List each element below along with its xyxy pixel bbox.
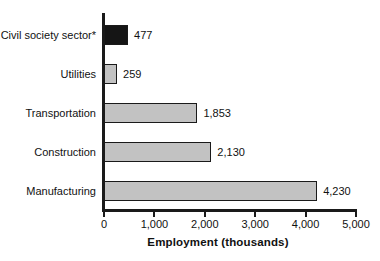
bar-value-label: 4,230 xyxy=(323,180,351,202)
bar xyxy=(104,25,128,45)
bar-value-label: 477 xyxy=(134,24,152,46)
category-label: Civil society sector* xyxy=(0,24,96,46)
x-axis-tick xyxy=(103,212,105,217)
bar-row: Transportation1,853 xyxy=(0,102,380,124)
bar xyxy=(104,64,117,84)
x-axis-tick xyxy=(153,212,155,217)
bar-value-label: 2,130 xyxy=(217,141,245,163)
x-axis-tick xyxy=(204,212,206,217)
y-axis-line xyxy=(102,13,105,211)
bar-value-label: 1,853 xyxy=(203,102,231,124)
category-label: Manufacturing xyxy=(0,180,96,202)
x-axis-tick-label: 5,000 xyxy=(331,218,380,231)
bar xyxy=(104,181,317,201)
x-axis-tick-label: 1,000 xyxy=(129,218,179,231)
category-label: Transportation xyxy=(0,102,96,124)
category-label: Construction xyxy=(0,141,96,163)
bar-chart: Civil society sector*477Utilities259Tran… xyxy=(0,0,380,261)
x-axis-tick-label: 4,000 xyxy=(281,218,331,231)
x-axis-tick xyxy=(355,212,357,217)
category-label: Utilities xyxy=(0,63,96,85)
x-axis-tick xyxy=(254,212,256,217)
bar-row: Utilities259 xyxy=(0,63,380,85)
bar-value-label: 259 xyxy=(123,63,141,85)
x-axis-tick-label: 2,000 xyxy=(180,218,230,231)
x-axis-tick-label: 3,000 xyxy=(230,218,280,231)
bar xyxy=(104,142,211,162)
bar xyxy=(104,103,197,123)
bar-row: Construction2,130 xyxy=(0,141,380,163)
bar-row: Manufacturing4,230 xyxy=(0,180,380,202)
x-axis-tick xyxy=(305,212,307,217)
bar-row: Civil society sector*477 xyxy=(0,24,380,46)
x-axis-line xyxy=(102,209,357,212)
x-axis-title: Employment (thousands) xyxy=(0,236,380,248)
x-axis-tick-label: 0 xyxy=(79,218,129,231)
x-axis-title-text: Employment (thousands) xyxy=(147,236,288,248)
